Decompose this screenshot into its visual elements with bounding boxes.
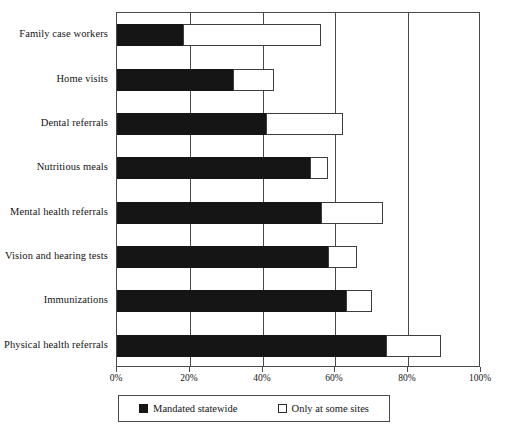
x-tick (407, 367, 408, 372)
bar-segment-some-sites (266, 113, 342, 135)
legend-entry-mandated: Mandated statewide (139, 403, 237, 415)
category-label: Mental health referrals (0, 206, 108, 218)
gridline-20 (190, 13, 191, 366)
bar-segment-mandated (117, 24, 183, 46)
bar-segment-some-sites (321, 202, 383, 224)
x-tick (334, 367, 335, 372)
x-tick-label: 40% (253, 373, 270, 384)
bar-row (117, 113, 481, 135)
bar-segment-some-sites (346, 290, 371, 312)
chart-legend: Mandated statewide Only at some sites (118, 395, 390, 422)
legend-label-mandated: Mandated statewide (153, 403, 237, 415)
plot-area (116, 12, 480, 367)
bar-row (117, 246, 481, 268)
bar-segment-mandated (117, 113, 266, 135)
bar-segment-some-sites (183, 24, 321, 46)
bar-segment-some-sites (310, 157, 328, 179)
category-label: Dental referrals (0, 117, 108, 129)
x-tick-label: 100% (469, 373, 491, 384)
legend-label-some-sites: Only at some sites (292, 403, 369, 415)
gridline-80 (408, 13, 409, 366)
category-label: Immunizations (0, 294, 108, 306)
x-tick (116, 367, 117, 372)
x-axis: 0%20%40%60%80%100% (116, 367, 480, 389)
bar-segment-some-sites (328, 246, 357, 268)
bar-segment-mandated (117, 69, 233, 91)
category-label: Physical health referrals (0, 339, 108, 351)
bar-row (117, 24, 481, 46)
bar-row (117, 69, 481, 91)
bar-segment-mandated (117, 202, 321, 224)
bar-segment-some-sites (233, 69, 273, 91)
legend-entry-some-sites: Only at some sites (278, 403, 369, 415)
category-label: Nutritious meals (0, 161, 108, 173)
bar-segment-mandated (117, 335, 386, 357)
filled-square-icon (139, 404, 148, 413)
bar-row (117, 290, 481, 312)
x-tick (189, 367, 190, 372)
x-tick-label: 80% (398, 373, 415, 384)
category-label: Family case workers (0, 28, 108, 40)
category-label: Home visits (0, 73, 108, 85)
hollow-square-icon (278, 404, 287, 413)
stacked-bar-chart-figure: Family case workersHome visitsDental ref… (0, 0, 505, 434)
x-tick-label: 0% (110, 373, 123, 384)
category-axis-labels: Family case workersHome visitsDental ref… (0, 12, 112, 367)
bar-segment-mandated (117, 157, 310, 179)
x-tick (480, 367, 481, 372)
gridline-60 (335, 13, 336, 366)
x-tick (262, 367, 263, 372)
category-label: Vision and hearing tests (0, 250, 108, 262)
gridline-40 (263, 13, 264, 366)
bar-segment-mandated (117, 290, 346, 312)
bar-row (117, 202, 481, 224)
x-tick-label: 20% (180, 373, 197, 384)
x-tick-label: 60% (325, 373, 342, 384)
bar-segment-some-sites (386, 335, 441, 357)
bar-row (117, 335, 481, 357)
bar-row (117, 157, 481, 179)
bar-segment-mandated (117, 246, 328, 268)
